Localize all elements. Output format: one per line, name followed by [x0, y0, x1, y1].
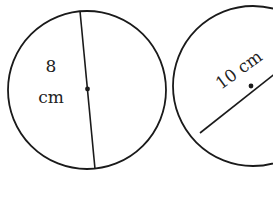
left-center-dot [85, 87, 90, 92]
left-diameter-unit: cm [38, 87, 64, 107]
left-circle-figure: 8 cm [8, 11, 166, 169]
right-center-dot [249, 84, 254, 89]
right-circle-figure: 10 cm [173, 6, 273, 166]
right-diameter-label: 10 cm [212, 46, 266, 93]
circles-diagram: 8 cm 10 cm [0, 0, 273, 198]
left-diameter-value: 8 [46, 56, 57, 76]
